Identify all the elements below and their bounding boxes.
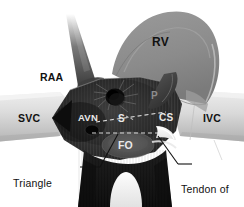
anatomy-figure: RV RAA SVC IVC AVN S CS FO P Triangle of… <box>0 0 244 207</box>
anatomy-diagram <box>0 0 244 207</box>
ventricle-region <box>78 150 172 207</box>
